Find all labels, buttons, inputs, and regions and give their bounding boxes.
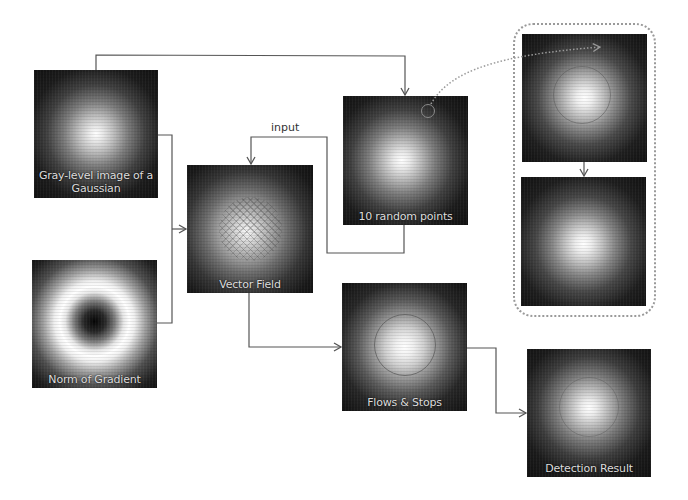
- flow-ring: [374, 314, 436, 376]
- gaussian-image-panel: Gray-level image of a Gaussian: [34, 70, 158, 198]
- detection-result-caption: Detection Result: [527, 462, 651, 475]
- flows-stops-panel: Flows & Stops: [342, 283, 467, 411]
- noise-overlay: [187, 165, 313, 293]
- input-edge-label: input: [271, 121, 299, 134]
- random-points-caption: 10 random points: [343, 210, 468, 223]
- vector-field-caption: Vector Field: [187, 278, 313, 291]
- zoom-detail-top-panel: [522, 34, 647, 162]
- noise-overlay: [521, 177, 646, 306]
- norm-gradient-caption: Norm of Gradient: [32, 373, 157, 386]
- noise-overlay: [343, 96, 468, 225]
- detection-ring: [559, 377, 619, 437]
- selection-circle: [421, 104, 435, 118]
- noise-overlay: [32, 260, 157, 388]
- norm-gradient-panel: Norm of Gradient: [32, 260, 157, 388]
- gaussian-caption: Gray-level image of a Gaussian: [34, 169, 158, 195]
- vector-field-panel: Vector Field: [187, 165, 313, 293]
- zoom-top-ring: [553, 66, 611, 124]
- zoom-detail-bottom-panel: [521, 177, 646, 306]
- caption-line-2: Gaussian: [34, 182, 158, 195]
- flows-stops-caption: Flows & Stops: [342, 396, 467, 409]
- random-points-panel: 10 random points: [343, 96, 468, 225]
- caption-line-1: Gray-level image of a: [34, 169, 158, 182]
- detection-result-panel: Detection Result: [527, 349, 651, 477]
